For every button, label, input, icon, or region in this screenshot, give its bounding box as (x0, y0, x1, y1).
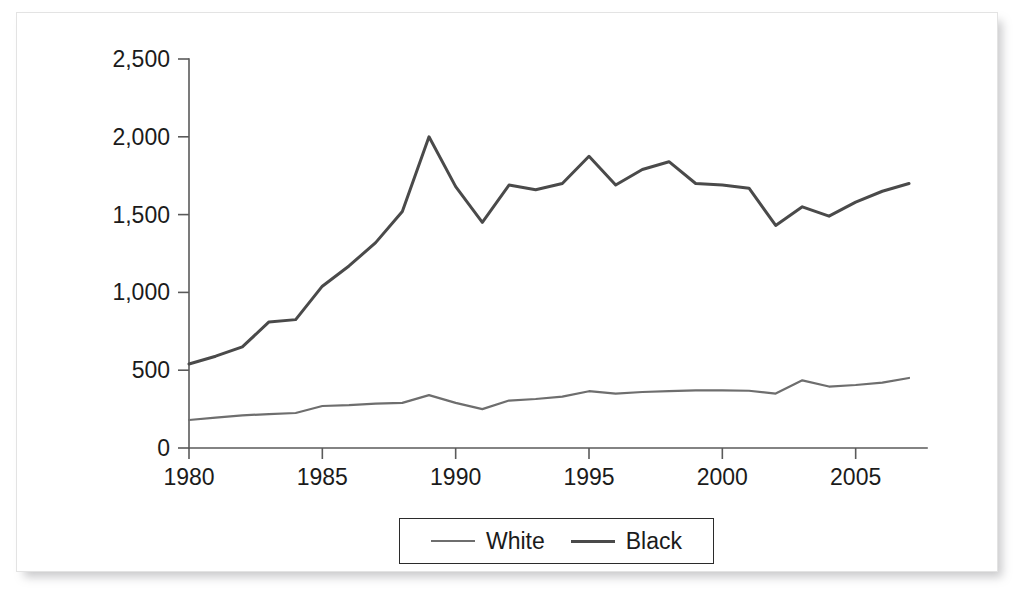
chart-legend: White Black (399, 518, 714, 564)
y-tick-label: 2,500 (112, 46, 170, 72)
series-line-white (189, 378, 909, 420)
line-swatch-black-icon (571, 540, 615, 543)
series-line-black (189, 137, 909, 364)
x-tick-label: 1985 (297, 464, 348, 490)
y-tick-label: 1,500 (112, 202, 170, 228)
legend-label-white: White (486, 528, 545, 555)
x-tick-label: 2005 (830, 464, 881, 490)
y-axis: 05001,0001,5002,0002,500 (112, 46, 189, 461)
y-tick-label: 0 (157, 435, 170, 461)
x-tick-label: 1980 (163, 464, 214, 490)
y-tick-label: 2,000 (112, 124, 170, 150)
y-tick-label: 500 (132, 357, 170, 383)
legend-label-black: Black (626, 528, 682, 555)
x-axis: 198019851990199520002005 (163, 448, 927, 490)
line-chart-svg: 05001,0001,5002,0002,500 198019851990199… (17, 13, 999, 573)
data-series-group (189, 137, 909, 420)
line-swatch-white-icon (431, 540, 475, 542)
x-tick-label: 2000 (697, 464, 748, 490)
y-tick-label: 1,000 (112, 279, 170, 305)
chart-plot-area: 05001,0001,5002,0002,500 198019851990199… (17, 13, 997, 571)
x-tick-label: 1995 (563, 464, 614, 490)
x-tick-label: 1990 (430, 464, 481, 490)
legend-item-black: Black (571, 528, 682, 555)
y-tick-group: 05001,0001,5002,0002,500 (112, 46, 189, 461)
legend-item-white: White (431, 528, 545, 555)
x-tick-group: 198019851990199520002005 (163, 448, 881, 490)
chart-card: 05001,0001,5002,0002,500 198019851990199… (16, 12, 998, 572)
